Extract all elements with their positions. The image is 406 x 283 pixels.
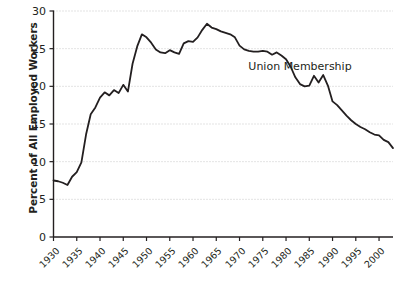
series-annotation-label: Union Membership [248, 60, 351, 73]
y-axis-tick-label: 20 [20, 80, 46, 93]
plot-area [0, 0, 406, 283]
y-axis-tick-label: 0 [20, 231, 46, 244]
y-axis-tick-label: 5 [20, 193, 46, 206]
y-axis-tick-label: 30 [20, 5, 46, 18]
data-series-line [54, 24, 394, 185]
union-membership-chart: Percent of All Employed Workers 05101520… [0, 0, 406, 283]
y-axis-tick-labels: 051015202530 [14, 0, 46, 283]
y-axis-tick-label: 10 [20, 155, 46, 168]
y-axis-tick-label: 15 [20, 118, 46, 131]
y-axis-tick-label: 25 [20, 42, 46, 55]
